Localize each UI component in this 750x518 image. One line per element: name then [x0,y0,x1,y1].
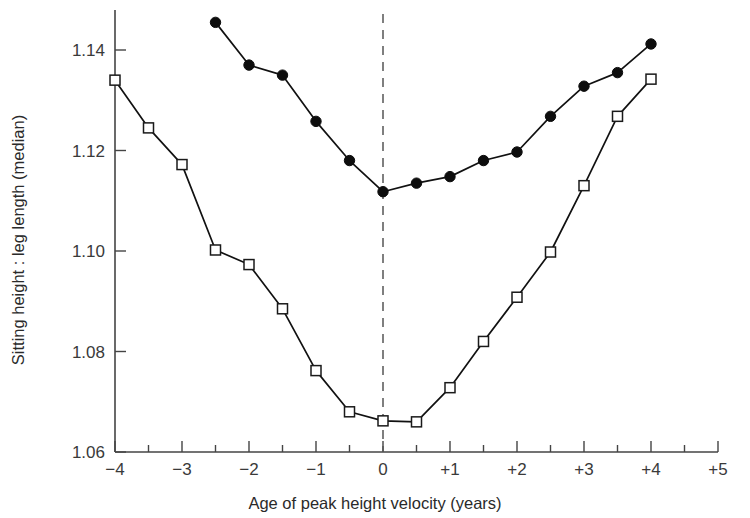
data-point-open-square [646,74,656,84]
data-point-filled-circle [445,171,455,181]
x-tick-label: −3 [172,460,191,479]
data-point-open-square [378,416,388,426]
data-point-open-square [345,407,355,417]
y-axis-ticks [115,50,126,452]
data-point-filled-circle [512,147,522,157]
x-tick-label: −1 [306,460,325,479]
data-point-open-square [445,383,455,393]
x-tick-label: +2 [507,460,526,479]
x-tick-label: +3 [574,460,593,479]
data-point-open-square [546,247,556,257]
x-axis-tick-labels: −4−3−2−10+1+2+3+4+5 [105,460,727,479]
data-point-filled-circle [277,70,287,80]
y-tick-label: 1.08 [72,343,105,362]
data-point-filled-circle [646,39,656,49]
data-point-filled-circle [311,116,321,126]
chart-figure: 1.061.081.101.121.14 −4−3−2−10+1+2+3+4+5… [0,0,750,518]
data-point-open-square [278,304,288,314]
y-axis-tick-labels: 1.061.081.101.121.14 [72,41,105,462]
plot-axes [115,10,718,452]
x-tick-label: +4 [641,460,660,479]
y-tick-label: 1.06 [72,443,105,462]
data-point-open-square [479,336,489,346]
data-point-open-square [110,75,120,85]
x-tick-label: −4 [105,460,124,479]
data-point-filled-circle [478,155,488,165]
data-point-open-square [244,260,254,270]
data-point-open-square [177,160,187,170]
data-point-open-square [512,292,522,302]
series-filled-circle-series [210,17,656,197]
data-point-filled-circle [579,81,589,91]
data-point-filled-circle [411,178,421,188]
data-point-filled-circle [244,60,254,70]
y-tick-label: 1.12 [72,142,105,161]
line-chart-svg: 1.061.081.101.121.14 −4−3−2−10+1+2+3+4+5… [0,0,750,518]
data-point-filled-circle [612,67,622,77]
data-point-open-square [211,245,221,255]
y-tick-label: 1.10 [72,242,105,261]
x-tick-label: 0 [378,460,387,479]
data-point-open-square [613,111,623,121]
x-tick-label: +1 [440,460,459,479]
x-axis-title: Age of peak height velocity (years) [248,494,501,512]
data-point-filled-circle [378,187,388,197]
data-point-open-square [579,181,589,191]
x-tick-label: +5 [708,460,727,479]
data-point-open-square [144,123,154,133]
y-tick-label: 1.14 [72,41,105,60]
data-point-filled-circle [344,155,354,165]
series-path [216,22,652,191]
x-axis-minor-ticks [149,445,685,452]
data-point-open-square [311,366,321,376]
data-point-filled-circle [210,17,220,27]
data-point-open-square [412,417,422,427]
x-tick-label: −2 [239,460,258,479]
data-point-filled-circle [545,111,555,121]
y-axis-title: Sitting height : leg length (median) [9,115,27,365]
